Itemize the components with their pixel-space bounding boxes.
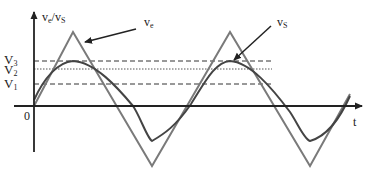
origin-label: 0 [24, 109, 30, 123]
ve-callout-label: ve [144, 15, 154, 30]
v1-label: V1 [4, 76, 17, 92]
triangle-wave [34, 32, 350, 166]
x-axis-label: t [353, 115, 357, 129]
vs-callout-label: vS [277, 15, 287, 30]
y-axis-label: ve/vS [42, 10, 65, 25]
vs-callout-arrow [234, 26, 271, 60]
sine-wave [34, 61, 350, 141]
ve-callout-arrow [85, 29, 136, 42]
waveform-diagram: ve/vS V3 V2 V1 0 t ve vS [0, 0, 378, 176]
